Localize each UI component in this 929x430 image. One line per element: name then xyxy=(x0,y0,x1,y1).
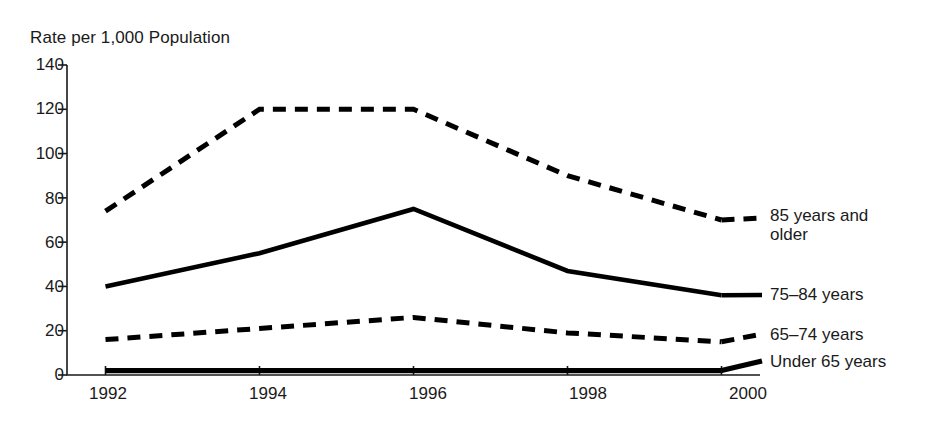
series-label-75-84: 75–84 years xyxy=(770,285,864,304)
series-layer xyxy=(106,109,722,370)
series-line-1 xyxy=(106,209,722,295)
series-label-85-plus: 85 years andolder xyxy=(770,206,868,244)
series-line-2 xyxy=(106,317,722,341)
series-label-65-74: 65–74 years xyxy=(770,325,864,344)
chart-figure: Rate per 1,000 Population 140 120 100 80… xyxy=(0,0,929,430)
y-axis-ticks xyxy=(58,65,67,375)
series-label-85-plus-line2: older xyxy=(770,225,808,244)
legend-swatch-3 xyxy=(722,361,763,371)
legend-swatch-0 xyxy=(722,218,763,220)
series-label-85-plus-line1: 85 years and xyxy=(770,206,868,225)
legend-swatch-2 xyxy=(722,334,763,342)
legend-swatches xyxy=(722,218,763,371)
series-label-under-65: Under 65 years xyxy=(770,352,886,371)
series-line-0 xyxy=(106,109,722,220)
